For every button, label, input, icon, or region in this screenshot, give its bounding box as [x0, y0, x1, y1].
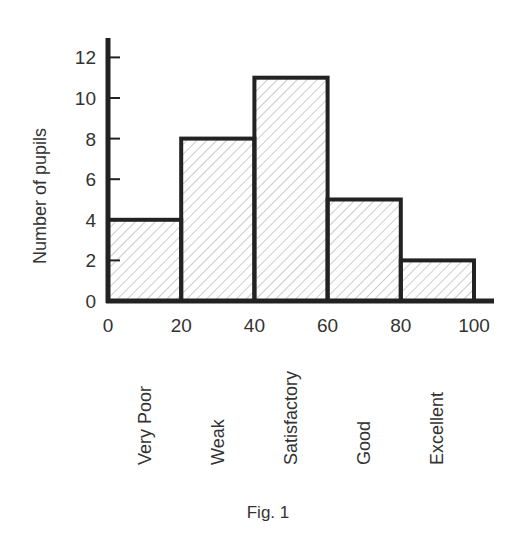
- histogram-bar-weak: [181, 139, 254, 301]
- y-tick-label: 0: [85, 291, 96, 312]
- category-labels-group: Very PoorWeakSatisfactoryGoodExcellent: [135, 371, 448, 465]
- x-tick-label: 0: [103, 315, 114, 336]
- x-tick-label: 100: [458, 315, 490, 336]
- histogram-bar-satisfactory: [254, 78, 327, 301]
- category-label: Very Poor: [135, 386, 155, 465]
- x-tick-label: 80: [390, 315, 411, 336]
- y-axis-label: Number of pupils: [30, 128, 50, 264]
- x-ticks-group: 020406080100: [103, 315, 490, 336]
- category-label: Good: [354, 421, 374, 465]
- x-tick-label: 20: [171, 315, 192, 336]
- histogram-bar-excellent: [401, 260, 474, 301]
- histogram-chart: 024681012 020406080100 Very PoorWeakSati…: [0, 0, 510, 543]
- y-tick-label: 8: [85, 129, 96, 150]
- y-tick-label: 10: [75, 88, 96, 109]
- y-tick-label: 6: [85, 169, 96, 190]
- x-tick-label: 40: [244, 315, 265, 336]
- category-label: Excellent: [427, 392, 447, 465]
- y-tick-label: 12: [75, 47, 96, 68]
- x-tick-label: 60: [317, 315, 338, 336]
- histogram-bar-good: [328, 200, 401, 302]
- category-label: Weak: [208, 418, 228, 465]
- y-tick-label: 4: [85, 210, 96, 231]
- category-label: Satisfactory: [281, 371, 301, 465]
- bars-group: [108, 78, 474, 301]
- figure-caption: Fig. 1: [247, 503, 290, 522]
- y-tick-label: 2: [85, 250, 96, 271]
